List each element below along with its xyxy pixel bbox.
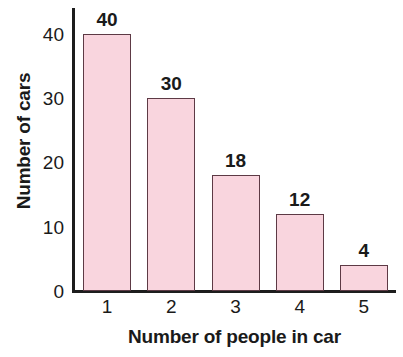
- y-tick-label: 20: [10, 153, 72, 172]
- bar-group: 12: [276, 8, 324, 291]
- y-axis-tick-labels: 010203040: [0, 0, 72, 357]
- bar-value-label: 30: [133, 74, 209, 93]
- bar-group: 40: [83, 8, 131, 291]
- bar: [147, 98, 195, 291]
- x-tick-label: 3: [202, 297, 270, 316]
- x-tick-label: 4: [266, 297, 334, 316]
- y-tick-label: 10: [10, 217, 72, 236]
- bar-value-label: 12: [262, 190, 338, 209]
- bar-group: 4: [340, 8, 388, 291]
- x-tick-label: 5: [330, 297, 398, 316]
- x-axis-title: Number of people in car: [72, 326, 397, 348]
- bar: [340, 265, 388, 291]
- bar: [212, 175, 260, 291]
- x-tick-label: 1: [73, 297, 141, 316]
- y-tick-label: 30: [10, 89, 72, 108]
- bar-group: 18: [212, 8, 260, 291]
- x-axis-tick-labels: 12345: [75, 297, 396, 323]
- y-tick-label: 0: [10, 282, 72, 301]
- x-tick-label: 2: [137, 297, 205, 316]
- bar-value-label: 4: [326, 241, 402, 260]
- y-tick-label: 40: [10, 24, 72, 43]
- bar: [276, 214, 324, 291]
- bar-value-label: 40: [69, 10, 145, 29]
- bar: [83, 34, 131, 291]
- bar-value-label: 18: [198, 151, 274, 170]
- bar-group: 30: [147, 8, 195, 291]
- plot-area: 403018124: [75, 8, 396, 291]
- bar-chart: Number of cars 010203040 403018124 12345…: [0, 0, 403, 357]
